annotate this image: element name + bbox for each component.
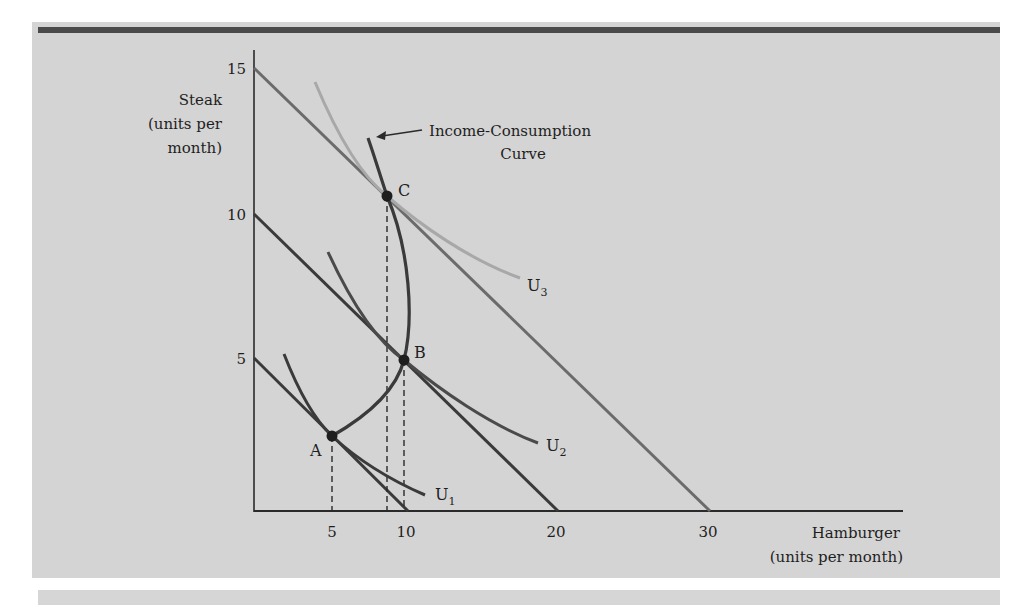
point-b-label: B — [414, 343, 426, 362]
point-a-label: A — [309, 441, 322, 460]
icc-label-line-2: Curve — [500, 145, 546, 163]
indifference-curve-u2 — [328, 252, 538, 443]
point-c-label: C — [398, 181, 410, 200]
indifference-curve-u3 — [315, 82, 520, 278]
y-axis-label-line-3: month) — [168, 139, 222, 157]
point-b-marker — [399, 355, 410, 366]
u1-label: U1 — [435, 485, 455, 508]
icc-label-line-1: Income-Consumption — [429, 122, 591, 140]
point-a-marker — [327, 431, 338, 442]
x-tick-10: 10 — [396, 523, 415, 541]
x-tick-5: 5 — [327, 523, 337, 541]
x-axis-label-line-2: (units per month) — [770, 548, 903, 566]
u2-label: U2 — [546, 436, 566, 459]
y-axis-label-line-1: Steak — [179, 91, 223, 109]
y-axis-label-line-2: (units per — [148, 115, 223, 133]
arrow-head-icon — [376, 131, 386, 140]
income-consumption-chart: 15 10 5 Steak (units per month) 5 10 20 … — [0, 0, 1029, 605]
icc-arrow-line — [382, 130, 422, 136]
y-tick-10: 10 — [227, 206, 246, 224]
point-c-marker — [382, 191, 393, 202]
y-tick-5: 5 — [236, 350, 246, 368]
u3-label: U3 — [527, 276, 547, 299]
x-tick-20: 20 — [546, 523, 565, 541]
y-tick-15: 15 — [227, 60, 246, 78]
x-axis-label-line-1: Hamburger — [812, 524, 901, 542]
x-tick-30: 30 — [698, 523, 717, 541]
